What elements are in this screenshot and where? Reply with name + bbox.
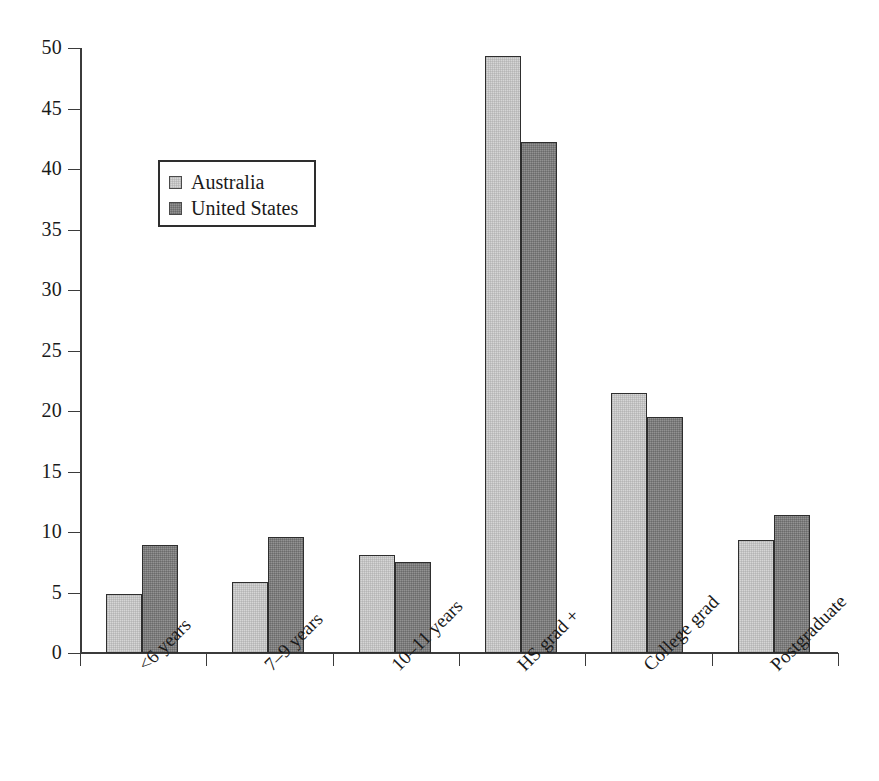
bar-chart: 05101520253035404550 <6 years7–9 years10…: [0, 0, 879, 781]
y-tick-label-5: 5: [18, 582, 62, 602]
bar-australia-1: [232, 582, 268, 653]
y-tick-label-50: 50: [18, 37, 62, 57]
plot-area: [80, 48, 838, 653]
legend-entry-australia: Australia: [169, 169, 314, 195]
legend-swatch-united-states: [169, 202, 182, 215]
bar-australia-2: [359, 555, 395, 653]
bar-australia-3: [485, 56, 521, 653]
y-tick-label-20: 20: [18, 400, 62, 420]
y-tick-label-40: 40: [18, 158, 62, 178]
legend: Australia United States: [158, 160, 316, 227]
y-tick-label-25: 25: [18, 340, 62, 360]
x-tick-6: [838, 653, 839, 666]
y-tick-label-35: 35: [18, 219, 62, 239]
bar-united-states-4: [647, 417, 683, 653]
x-tick-5: [712, 653, 713, 666]
bar-united-states-3: [521, 142, 557, 653]
y-tick-label-45: 45: [18, 98, 62, 118]
legend-label-united-states: United States: [191, 197, 298, 219]
bar-australia-5: [738, 540, 774, 653]
legend-label-australia: Australia: [191, 171, 264, 193]
bar-australia-0: [106, 594, 142, 653]
legend-entry-united-states: United States: [169, 195, 314, 221]
bar-australia-4: [611, 393, 647, 653]
y-tick-label-0: 0: [18, 642, 62, 662]
x-tick-4: [585, 653, 586, 666]
x-tick-1: [206, 653, 207, 666]
x-tick-2: [333, 653, 334, 666]
x-tick-0: [80, 653, 81, 666]
x-tick-3: [459, 653, 460, 666]
y-tick-label-10: 10: [18, 521, 62, 541]
y-tick-label-30: 30: [18, 279, 62, 299]
y-tick-label-15: 15: [18, 461, 62, 481]
legend-swatch-australia: [169, 176, 182, 189]
